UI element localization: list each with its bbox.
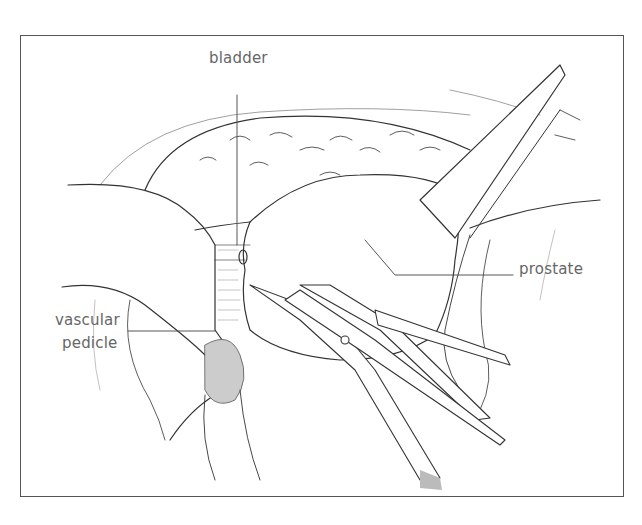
vascular-pedicle-label-line1: vascular: [55, 311, 120, 329]
surgical-instruments: [250, 285, 510, 480]
prostate-label: prostate: [519, 260, 583, 278]
vascular-pedicle-label-line2: pedicle: [62, 334, 117, 352]
vascular-pedicle: [205, 339, 244, 403]
retractor-blade: [420, 65, 565, 238]
prostate-leader: [365, 240, 513, 275]
bladder-label: bladder: [209, 49, 268, 67]
